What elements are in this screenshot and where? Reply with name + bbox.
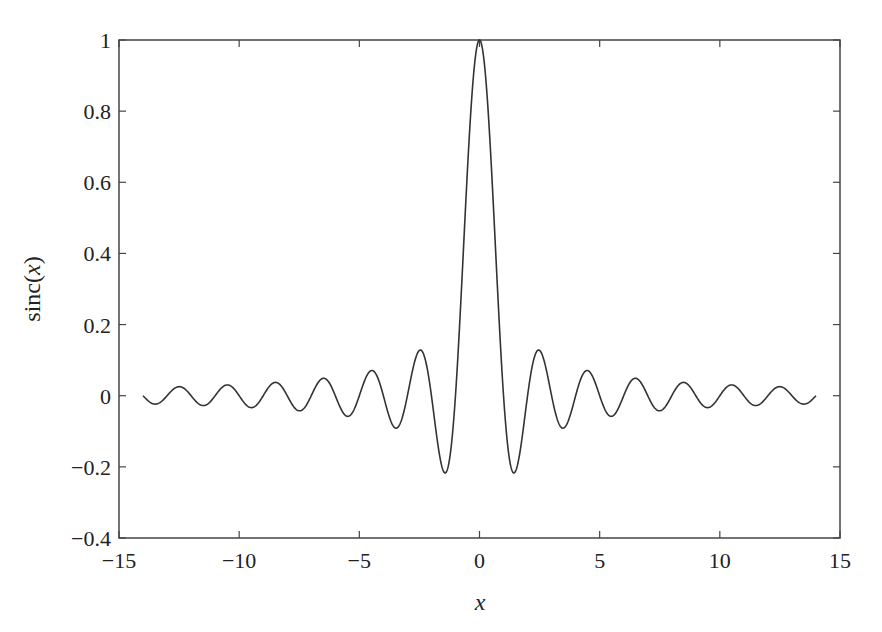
- x-tick-label: −10: [222, 548, 256, 573]
- y-tick-label: 0.2: [84, 313, 112, 338]
- y-tick-label: 1: [100, 28, 111, 53]
- plot-frame: [119, 40, 840, 538]
- x-tick-label: 10: [709, 548, 731, 573]
- y-axis-label-suffix: ): [19, 256, 45, 264]
- sinc-chart: −15−10−5051015 −0.4−0.200.20.40.60.81 x …: [0, 0, 882, 632]
- y-axis-label-var: x: [19, 264, 45, 276]
- y-tick-label: 0: [100, 384, 111, 409]
- y-tick-label: −0.2: [71, 455, 111, 480]
- x-axis-label: x: [474, 589, 486, 615]
- y-tick-label: −0.4: [71, 526, 111, 551]
- y-tick-label: 0.4: [84, 241, 112, 266]
- y-axis-label: sinc(x): [19, 256, 45, 321]
- y-tick-label: 0.6: [84, 170, 112, 195]
- y-axis-label-prefix: sinc(: [19, 275, 45, 322]
- x-tick-label: 5: [594, 548, 605, 573]
- x-tick-label: −5: [348, 548, 371, 573]
- x-tick-label: 0: [474, 548, 485, 573]
- x-tick-label: −15: [102, 548, 136, 573]
- y-tick-label: 0.8: [84, 99, 112, 124]
- x-tick-label: 15: [829, 548, 851, 573]
